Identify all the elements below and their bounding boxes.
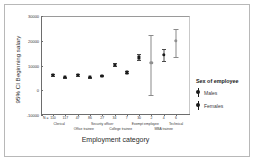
x-tick-mark [176,114,177,116]
category-label: Office trainee [74,127,94,131]
x-tick-mark [102,114,103,116]
y-tick-label: 30000 [28,14,39,19]
x-tick-mark [53,114,54,116]
error-bar-icon [196,101,201,110]
y-tick-label: 0 [37,88,39,93]
category-label: Exempt employee [132,122,159,126]
y-tick-mark [41,66,43,67]
category-label: Clerical [53,122,64,126]
x-tick-mark [127,114,128,116]
x-tick-mark [65,114,66,116]
x-axis-title: Employment category [41,136,190,143]
error-bar-cap [113,66,117,67]
x-tick-mark [139,114,140,116]
data-point [76,74,79,77]
x-tick-mark [78,114,79,116]
category-label: Security officer [91,122,113,126]
error-bar-icon [196,88,201,97]
data-point [101,74,104,77]
error-bar-cap [174,29,179,30]
data-point [138,56,141,59]
n-value-label: 117 [63,116,69,120]
legend-title: Sex of employee [196,78,252,84]
error-bar-cap [149,35,154,36]
error-bar-cap [174,57,179,58]
legend-item[interactable]: Females [196,101,252,110]
error-bar-cap [137,60,141,61]
n-value-label: 2 [150,116,152,120]
y-tick-mark [41,90,43,91]
chart-screenshot: 3000020000100000-10000 95% CI Beginning … [0,0,255,162]
error-bar-cap [149,95,154,96]
error-bar-cap [162,49,166,50]
y-tick-mark [41,41,43,42]
data-point [64,76,67,79]
n-value-label: 6 [175,116,177,120]
y-tick-label: -10000 [27,113,39,118]
x-tick-mark [164,114,165,116]
data-point [51,73,54,76]
y-tick-label: 20000 [28,38,39,43]
error-bar-cap [162,61,166,62]
error-bar-line [176,29,177,57]
data-point [125,71,128,74]
y-axis-title: 95% CI Beginning salary [14,20,21,120]
category-label: Technical [169,122,183,126]
x-tick-mark [115,114,116,116]
n-value-label: 7 [126,116,128,120]
n-value-label: 30 [137,116,141,120]
category-label: College trainee [109,127,132,131]
legend-item[interactable]: Males [196,88,252,97]
error-bar-line [151,35,152,96]
n-value-label: 86 [88,116,92,120]
y-tick-label: 10000 [28,63,39,68]
legend: Sex of employee MalesFemales [196,78,252,114]
x-tick-mark [151,114,152,116]
n-value-label: 34 [113,116,117,120]
y-tick-mark [41,16,43,17]
x-tick-mark [90,114,91,116]
n-value-label: 47 [76,116,80,120]
n-value-label: 27 [100,116,104,120]
n-value-label: 110 [50,116,56,120]
n-value-label: 4 [163,116,165,120]
x-axis-line [41,114,190,115]
legend-label: Females [204,103,223,109]
n-prefix-label: N = [43,116,49,120]
category-label: MBA trainee [154,127,172,131]
legend-label: Males [204,90,217,96]
data-point [88,76,91,79]
legend-items: MalesFemales [196,88,252,110]
data-point [113,63,116,66]
